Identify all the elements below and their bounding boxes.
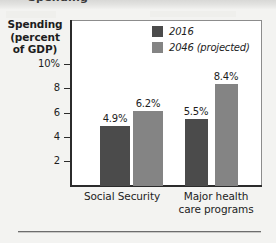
clipped-title-strip: Spending [0, 0, 276, 9]
x-category-label-social-security-line-1: Social Security [74, 190, 170, 203]
bar-social-security-2046-projected [133, 111, 163, 186]
y-tick-label-4: 4 [12, 132, 60, 142]
bar-value-label-major-health-2046-projected: 8.4% [209, 71, 243, 82]
page-texture-ghost [6, 11, 56, 18]
bar-major-health-2046-projected [215, 84, 238, 186]
bar-major-health-2016 [185, 119, 208, 186]
bar-value-label-social-security-2046-projected: 6.2% [131, 98, 165, 109]
bar-series-container: 4.9% 6.2% 5.5% 8.4% [71, 20, 262, 186]
y-axis-title: Spending (percent of GDP) [4, 18, 66, 56]
footer-divider-shadow [18, 232, 261, 233]
y-tick-label-6: 6 [12, 108, 60, 118]
clipped-title-text: Spending [28, 0, 88, 4]
y-tick-label-8: 8 [12, 83, 60, 93]
bar-chart: Spending (percent of GDP) 10% 8 6 4 2 20… [0, 9, 276, 219]
bar-value-label-major-health-2016: 5.5% [179, 106, 213, 117]
x-category-label-major-health-line-2: care programs [170, 203, 262, 216]
x-category-label-social-security: Social Security [74, 190, 170, 203]
y-axis-title-line-2: (percent [4, 31, 66, 44]
bar-social-security-2016 [100, 126, 130, 186]
y-tick-label-10: 10% [12, 59, 60, 69]
page-texture-ghost [150, 11, 236, 17]
x-category-label-major-health-line-1: Major health [170, 190, 262, 203]
bar-value-label-social-security-2016: 4.9% [98, 113, 132, 124]
y-tick-label-2: 2 [12, 156, 60, 166]
x-category-label-major-health-care-programs: Major health care programs [170, 190, 262, 216]
y-axis-title-line-1: Spending [4, 18, 66, 31]
y-axis-title-line-3: of GDP) [4, 43, 66, 56]
